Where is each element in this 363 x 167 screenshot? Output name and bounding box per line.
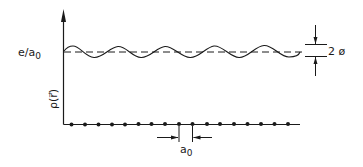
atom — [150, 122, 154, 126]
atom — [218, 122, 222, 126]
atom — [163, 122, 167, 126]
y-axis — [61, 9, 66, 125]
y-axis-label: ρ(r⃗) — [47, 89, 60, 109]
atom — [259, 122, 263, 126]
mean-level-label-main: e/a — [18, 46, 35, 59]
y-axis-arrow-icon — [61, 9, 66, 22]
amplitude-marker: 2 ø — [305, 25, 345, 76]
atom — [191, 122, 195, 126]
atom — [123, 123, 127, 127]
atom — [83, 123, 87, 127]
atom — [70, 123, 74, 127]
atom — [286, 122, 290, 126]
arrow-left-icon — [193, 136, 201, 140]
arrow-right-icon — [171, 136, 179, 140]
lattice-spacing-label-main: a — [180, 143, 187, 156]
charge-density-wave-diagram: 2 ø e/a0 ρ(r⃗) a0 — [0, 0, 363, 167]
arrow-down-icon — [314, 37, 318, 44]
amplitude-label: 2 ø — [328, 45, 345, 58]
mean-level-label: e/a0 — [18, 46, 41, 61]
atom — [177, 122, 181, 126]
svg-text:e/a0: e/a0 — [18, 46, 41, 61]
atom — [232, 122, 236, 126]
arrow-up-icon — [314, 57, 318, 64]
atom — [205, 122, 209, 126]
lattice-spacing-label: a0 — [180, 143, 193, 158]
lattice-spacing-marker — [157, 126, 212, 142]
atom — [246, 122, 250, 126]
atom — [273, 122, 277, 126]
lattice-spacing-label-sub: 0 — [187, 148, 193, 158]
atom — [137, 122, 141, 126]
atom — [97, 123, 101, 127]
atom — [110, 123, 114, 127]
mean-level-label-sub: 0 — [35, 51, 41, 61]
